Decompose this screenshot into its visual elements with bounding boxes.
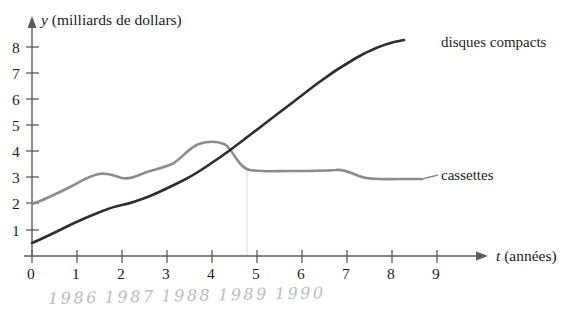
y-axis-arrowhead <box>28 16 37 28</box>
x-axis-title: t (années) <box>496 248 557 264</box>
handwritten-year-1987: 1987 <box>105 287 156 307</box>
handwritten-year-1990: 1990 <box>275 283 326 303</box>
x-tick-label-4: 4 <box>207 266 215 282</box>
handwritten-year-1988: 1988 <box>161 286 212 306</box>
handwritten-year-1986: 1986 <box>48 288 99 308</box>
x-tick-label-8: 8 <box>387 266 395 282</box>
y-axis-title-variable: y <box>41 11 48 28</box>
y-tick-label-7: 7 <box>12 66 20 82</box>
cassettes-label-leader <box>422 175 438 179</box>
x-tick-label-1: 1 <box>72 266 80 282</box>
series-label-cassettes: cassettes <box>441 168 493 183</box>
y-tick-label-4: 4 <box>12 144 20 160</box>
x-axis-arrowhead <box>476 252 488 261</box>
y-tick-label-8: 8 <box>12 40 20 56</box>
series-label-disques-compacts: disques compacts <box>441 35 546 50</box>
y-tick-label-3: 3 <box>12 170 20 186</box>
x-tick-label-6: 6 <box>297 266 305 282</box>
x-axis-title-units: (années) <box>500 247 556 264</box>
x-axis <box>24 250 488 263</box>
x-tick-label-7: 7 <box>342 266 350 282</box>
x-tick-label-3: 3 <box>162 266 170 282</box>
x-tick-label-0: 0 <box>27 266 35 282</box>
y-tick-label-2: 2 <box>12 196 20 212</box>
handwritten-year-1989: 1989 <box>218 284 269 304</box>
chart-figure: 8 7 6 5 4 3 2 1 0 1 2 3 4 5 6 7 8 9 y (m… <box>0 0 581 316</box>
x-tick-label-5: 5 <box>252 266 260 282</box>
x-tick-label-2: 2 <box>117 266 125 282</box>
y-tick-label-5: 5 <box>12 118 20 134</box>
y-axis-title-units: (milliards de dollars) <box>48 11 182 28</box>
y-tick-label-6: 6 <box>12 92 20 108</box>
y-tick-label-1: 1 <box>12 223 20 239</box>
x-tick-label-9: 9 <box>432 266 440 282</box>
y-axis <box>26 16 39 256</box>
y-axis-title: y (milliards de dollars) <box>41 12 182 28</box>
